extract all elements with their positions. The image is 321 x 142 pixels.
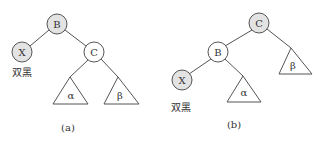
node-b: B xyxy=(47,14,67,34)
double-black-label: 双黑 xyxy=(171,102,191,113)
edge-c-beta xyxy=(267,29,291,48)
edge-b-alpha xyxy=(225,59,243,76)
subtree-alpha: α xyxy=(227,76,261,102)
node-c: C xyxy=(84,42,104,62)
rotation-diagram: B X 双黑 C α β (a) xyxy=(0,0,321,142)
double-black-label: 双黑 xyxy=(12,67,32,78)
node-b-label: B xyxy=(214,47,221,58)
node-b: B xyxy=(208,42,228,62)
node-c-label: C xyxy=(255,18,263,29)
node-x: X xyxy=(172,70,192,90)
edge-b-x xyxy=(189,59,211,74)
subtree-beta: β xyxy=(279,48,312,74)
subtree-alpha: α xyxy=(53,77,88,104)
subtree-alpha-label: α xyxy=(241,87,248,98)
node-b-label: B xyxy=(53,19,60,30)
edge-b-x xyxy=(30,30,49,46)
edge-c-alpha xyxy=(70,60,88,77)
subtree-beta-label: β xyxy=(290,60,296,71)
edge-b-c xyxy=(65,30,86,46)
node-x-label: X xyxy=(18,47,26,58)
subtree-beta: β xyxy=(104,77,139,104)
subtree-alpha-label: α xyxy=(68,90,75,101)
tree-b: C B X 双黑 α β (b) xyxy=(171,13,312,130)
node-c-label: C xyxy=(90,47,98,58)
caption-b: (b) xyxy=(227,119,241,130)
node-x-label: X xyxy=(178,75,186,86)
edge-c-beta xyxy=(101,59,118,77)
node-c: C xyxy=(249,13,269,33)
tree-a: B X 双黑 C α β (a) xyxy=(12,14,139,133)
subtree-beta-label: β xyxy=(117,90,123,101)
node-x: X xyxy=(12,42,32,62)
caption-a: (a) xyxy=(61,122,75,133)
edge-c-b xyxy=(225,30,252,46)
